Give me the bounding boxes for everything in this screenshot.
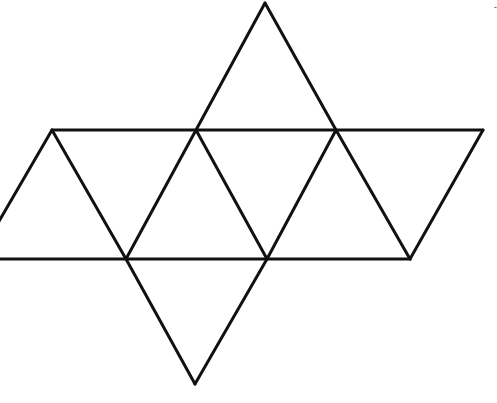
edge-mid2-right: [336, 130, 410, 259]
edge-mid1-right: [196, 130, 267, 259]
edge-bottom-apex-right: [195, 259, 267, 384]
edge-right-tri: [410, 130, 483, 259]
edge-left-tri-left: [0, 130, 52, 259]
edge-mid1-left: [126, 130, 196, 259]
edge-top-apex-left: [196, 3, 265, 130]
octahedron-net-diagram: -: [0, 0, 497, 403]
edge-top-apex-right: [265, 3, 336, 130]
edge-bottom-apex-left: [126, 259, 195, 384]
edge-left-tri-right: [52, 130, 126, 259]
net-edges: [0, 3, 483, 384]
edge-mid2-left: [267, 130, 336, 259]
